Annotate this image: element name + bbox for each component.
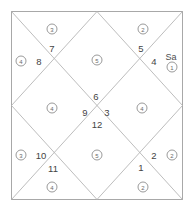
sign-badge-left-upper: 4: [16, 56, 27, 67]
sign-number: 1: [167, 62, 178, 73]
sign-badge-top-center: 5: [92, 55, 103, 66]
sign-badge-top-left: 3: [47, 24, 58, 35]
sign-number: 5: [92, 150, 103, 161]
house-number-1: 1: [138, 163, 143, 172]
house-number-12: 12: [92, 120, 103, 129]
sign-badge-bottom-center: 5: [92, 150, 103, 161]
planet-label-saturn: Sa: [165, 53, 176, 62]
house-number-5: 5: [138, 44, 143, 53]
sign-number: 4: [16, 56, 27, 67]
sign-number: 2: [138, 182, 149, 193]
house-number-4: 4: [151, 57, 156, 66]
sign-number: 2: [167, 150, 178, 161]
sign-number: 3: [16, 150, 27, 161]
vedic-chart: 1 2 3 4 5 6 7 8 9 10 11 12 Sa 3 2 1 4 5 …: [0, 0, 194, 211]
house-number-8: 8: [36, 57, 41, 66]
sign-number: 4: [47, 103, 58, 114]
house-number-9: 9: [82, 108, 87, 117]
sign-badge-top-right: 2: [138, 24, 149, 35]
house-number-2: 2: [151, 151, 156, 160]
house-number-3: 3: [104, 108, 109, 117]
sign-number: 3: [47, 24, 58, 35]
house-number-11: 11: [48, 164, 58, 173]
sign-number: 4: [137, 103, 148, 114]
house-number-10: 10: [36, 151, 47, 160]
house-number-7: 7: [49, 44, 54, 53]
chart-lines: [0, 0, 194, 211]
sign-number: 5: [92, 55, 103, 66]
sign-number: 4: [47, 182, 58, 193]
sign-badge-left-lower: 3: [16, 150, 27, 161]
sign-badge-bottom-right: 2: [138, 182, 149, 193]
sign-badge-right-upper: 1: [167, 62, 178, 73]
sign-number: 2: [138, 24, 149, 35]
sign-badge-bottom-left: 4: [47, 182, 58, 193]
sign-badge-right-lower: 2: [167, 150, 178, 161]
sign-badge-mid-right: 4: [137, 103, 148, 114]
house-number-6: 6: [93, 92, 98, 101]
sign-badge-mid-left: 4: [47, 103, 58, 114]
